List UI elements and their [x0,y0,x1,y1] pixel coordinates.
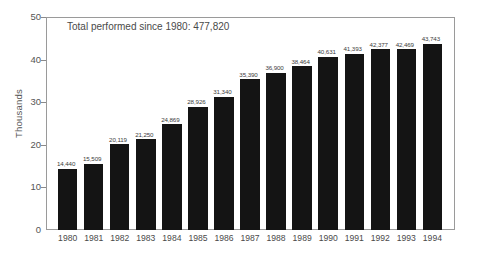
bar-1980: 14,440 [58,17,77,230]
y-tick-label-40: 40 [14,55,41,65]
bars-layer: 14,44015,50920,11921,25024,86928,92631,3… [46,17,455,230]
bar-rect [84,164,103,230]
x-tick-label-1991: 1991 [341,233,367,243]
bar-1993: 42,469 [397,17,416,230]
x-tick-label-1989: 1989 [289,233,315,243]
bar-1994: 43,743 [423,17,442,230]
x-tick-label-1992: 1992 [367,233,393,243]
bar-value-label: 24,869 [161,116,179,123]
bar-value-label: 42,469 [396,41,414,48]
bar-rect [188,107,207,230]
bar-value-label: 21,250 [135,131,153,138]
bar-1990: 40,631 [318,17,337,230]
bar-rect [292,66,311,230]
x-tick-label-1994: 1994 [419,233,445,243]
x-tick-label-1984: 1984 [159,233,185,243]
bar-1992: 42,377 [371,17,390,230]
y-tick-mark-50 [41,17,46,18]
bar-chart-figure: Thousands Total performed since 1980: 47… [0,0,481,260]
bar-rect [240,79,259,230]
y-tick-label-20: 20 [14,140,41,150]
bar-1981: 15,509 [84,17,103,230]
bar-rect [110,144,129,230]
bar-rect [371,49,390,230]
bar-rect [136,139,155,230]
bar-value-label: 35,390 [239,71,257,78]
bar-1984: 24,869 [162,17,181,230]
bar-value-label: 14,440 [57,160,75,167]
x-tick-label-1986: 1986 [211,233,237,243]
x-tick-label-1982: 1982 [107,233,133,243]
bar-1987: 35,390 [240,17,259,230]
bar-rect [318,57,337,230]
bar-1986: 31,340 [214,17,233,230]
bar-value-label: 40,631 [317,48,335,55]
y-tick-mark-10 [41,187,46,188]
x-tick-label-1985: 1985 [185,233,211,243]
bar-rect [266,73,285,230]
bar-value-label: 42,377 [370,41,388,48]
bar-rect [345,54,364,230]
y-tick-label-30: 30 [14,97,41,107]
y-tick-label-50: 50 [14,12,41,22]
y-tick-mark-40 [41,60,46,61]
bar-value-label: 20,119 [109,136,127,143]
bar-1989: 38,464 [292,17,311,230]
bar-1988: 36,900 [266,17,285,230]
bar-value-label: 36,900 [265,64,283,71]
bar-rect [397,49,416,230]
bar-value-label: 41,393 [344,45,362,52]
x-tick-label-1990: 1990 [315,233,341,243]
x-tick-label-1988: 1988 [263,233,289,243]
bar-1982: 20,119 [110,17,129,230]
bar-rect [214,97,233,231]
y-tick-mark-30 [41,102,46,103]
bar-1991: 41,393 [345,17,364,230]
bar-rect [423,44,442,230]
y-tick-mark-20 [41,145,46,146]
bar-value-label: 28,926 [187,98,205,105]
bar-value-label: 31,340 [213,88,231,95]
x-tick-label-1987: 1987 [237,233,263,243]
bar-rect [58,169,77,231]
x-tick-label-1981: 1981 [81,233,107,243]
bar-value-label: 43,743 [422,35,440,42]
bar-rect [162,124,181,230]
bar-value-label: 15,509 [83,155,101,162]
x-axis: 1980198119821983198419851986198719881989… [46,233,455,247]
bar-1985: 28,926 [188,17,207,230]
bar-1983: 21,250 [136,17,155,230]
y-tick-label-10: 10 [14,183,41,193]
x-tick-label-1993: 1993 [393,233,419,243]
x-tick-label-1980: 1980 [55,233,81,243]
bar-value-label: 38,464 [291,58,309,65]
x-tick-label-1983: 1983 [133,233,159,243]
y-tick-label-0: 0 [14,225,41,235]
